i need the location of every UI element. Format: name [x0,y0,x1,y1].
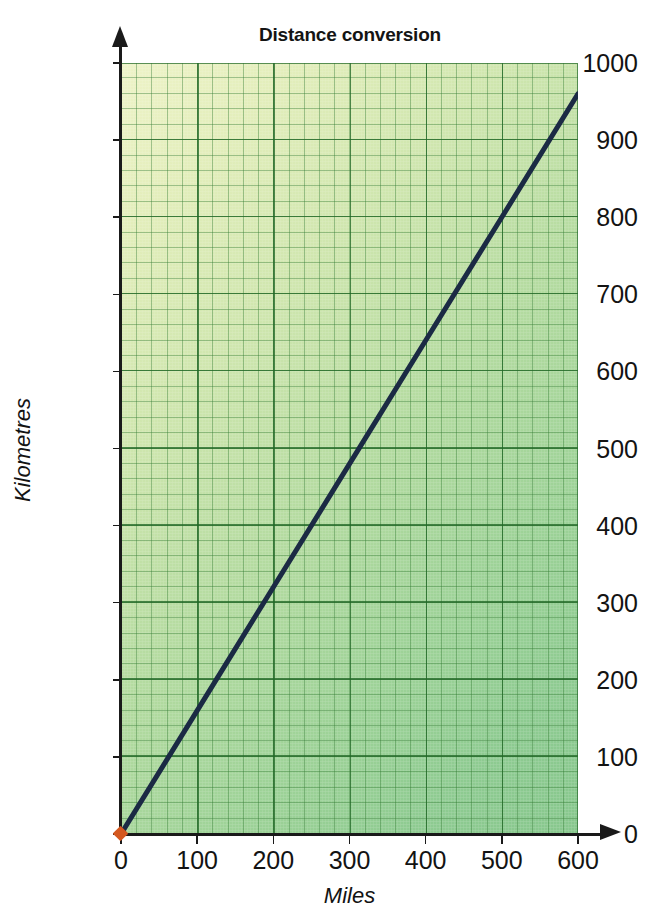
x-tick [196,836,198,844]
y-tick [113,62,121,64]
x-tick [349,836,351,844]
series-line-miles-to-kilometres [121,94,578,834]
x-tick [273,836,275,844]
y-axis-arrow-icon [112,26,128,47]
y-tick-label: 1000 [540,51,648,76]
y-tick [113,448,121,450]
x-tick [425,836,427,844]
y-tick [113,525,121,527]
x-axis-line [121,833,603,836]
y-tick-label: 600 [540,359,648,384]
y-tick [113,756,121,758]
y-tick-label: 100 [540,745,648,770]
y-tick [113,371,121,373]
y-tick [113,216,121,218]
y-tick-label: 0 [540,822,648,847]
y-axis-title: Kilometres [10,370,36,530]
y-tick-label: 400 [540,514,648,539]
y-tick [113,679,121,681]
y-tick-label: 300 [540,591,648,616]
distance-conversion-chart: Distance conversion 01002003004005006007… [0,0,648,919]
y-tick [113,139,121,141]
y-tick-label: 500 [540,437,648,462]
x-axis-title: Miles [121,883,578,909]
x-tick [501,836,503,844]
y-tick-label: 700 [540,282,648,307]
y-tick-label: 800 [540,205,648,230]
y-tick-label: 900 [540,128,648,153]
series-layer [121,63,578,834]
x-tick-label: 600 [533,848,623,873]
plot-area [121,63,578,834]
chart-title: Distance conversion [150,24,550,46]
y-axis-line [119,44,122,835]
y-tick [113,294,121,296]
y-tick [113,602,121,604]
y-tick-label: 200 [540,668,648,693]
